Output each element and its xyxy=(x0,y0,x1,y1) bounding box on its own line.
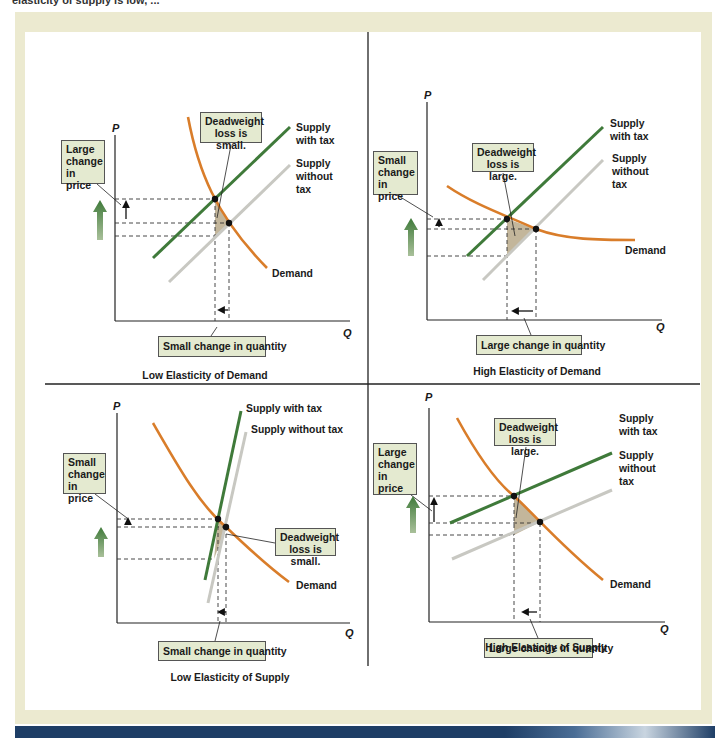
demand-label: Demand xyxy=(272,267,313,280)
supply-without-tax-label: Supply without tax xyxy=(296,157,333,196)
demand-label: Demand xyxy=(296,579,337,592)
supply-without-tax-line xyxy=(208,432,246,603)
dwl-leader-line xyxy=(226,534,275,543)
supply-without-tax-line xyxy=(452,490,612,559)
q-axis-label: Q xyxy=(660,623,669,635)
dwl-label-box: Deadweight loss is small. xyxy=(200,112,262,143)
p-axis-label: P xyxy=(112,122,119,134)
dwl-label-box: Deadweight loss is large. xyxy=(472,143,534,172)
quantity-leader-line xyxy=(215,621,220,641)
equilibrium-point-without-tax xyxy=(533,226,539,232)
q-axis-label: Q xyxy=(343,327,352,339)
dwl-label-box: Deadweight loss is large. xyxy=(494,418,556,446)
p-axis-label: P xyxy=(113,400,120,412)
price-leader-line xyxy=(95,494,127,518)
supply-with-tax-line xyxy=(205,411,241,580)
supply-without-tax-label: Supply without tax xyxy=(619,449,656,488)
quantity-change-label-box: Small change in quantity xyxy=(158,641,266,661)
quantity-change-label-box: Large change in quantity xyxy=(476,335,582,355)
demand-curve xyxy=(447,186,635,240)
green-up-arrow-icon xyxy=(406,496,420,533)
price-change-label-box: Small change in price xyxy=(373,151,418,195)
equilibrium-point-without-tax xyxy=(223,524,229,530)
equilibrium-point-without-tax xyxy=(226,220,232,226)
price-change-label-box: Large change in price xyxy=(61,140,105,184)
equilibrium-point-with-tax xyxy=(504,216,510,222)
supply-with-tax-label: Supply with tax xyxy=(246,402,322,415)
supply-without-tax-label: Supply without tax xyxy=(251,423,343,436)
price-change-label-box: Small change in price xyxy=(63,453,106,494)
supply-with-tax-label: Supply with tax xyxy=(619,412,658,438)
panel-title: High Elasticity of Demand xyxy=(473,365,601,377)
equilibrium-point-with-tax xyxy=(511,493,517,499)
supply-with-tax-label: Supply with tax xyxy=(610,117,649,143)
q-axis-label: Q xyxy=(345,627,354,639)
equilibrium-point-with-tax xyxy=(212,196,218,202)
equilibrium-point-with-tax xyxy=(215,516,221,522)
panel-title: Low Elasticity of Demand xyxy=(142,369,267,381)
supply-with-tax-label: Supply with tax xyxy=(296,121,335,147)
p-axis-label: P xyxy=(424,89,431,101)
dwl-label-box: Deadweight loss is small. xyxy=(275,528,336,556)
green-up-arrow-icon xyxy=(93,200,107,240)
panel-low-elasticity-supply xyxy=(94,411,350,641)
demand-label: Demand xyxy=(625,244,666,257)
panel-title: High Elasticity of Supply xyxy=(485,641,606,653)
p-axis-label: P xyxy=(425,391,432,403)
dashed-guides xyxy=(117,519,226,623)
q-axis-label: Q xyxy=(656,321,665,333)
green-up-arrow-icon xyxy=(94,527,108,557)
supply-without-tax-label: Supply without tax xyxy=(612,152,649,191)
green-up-arrow-icon xyxy=(404,218,418,256)
panel-title: Low Elasticity of Supply xyxy=(170,671,289,683)
dwl-leader-line xyxy=(217,145,231,218)
elasticity-diagrams xyxy=(0,0,728,738)
quantity-leader-line xyxy=(211,327,217,336)
price-change-label-box: Large change in price xyxy=(373,443,417,495)
quantity-change-label-box: Small change in quantity xyxy=(158,336,266,357)
equilibrium-point-without-tax xyxy=(537,519,543,525)
dashed-guides xyxy=(115,199,229,321)
demand-label: Demand xyxy=(610,578,651,591)
